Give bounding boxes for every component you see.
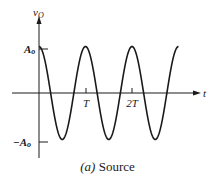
x-tick-label-2T: 2T — [126, 97, 139, 109]
y-axis-label: vO — [33, 6, 44, 20]
caption-text: Source — [99, 159, 135, 174]
caption-label: (a) — [80, 159, 95, 174]
x-axis-label: t — [203, 87, 207, 99]
y-tick-label-pos: Ao — [23, 43, 35, 56]
x-axis-arrow-icon — [193, 91, 201, 96]
y-tick-label-neg: −Ao — [13, 136, 31, 149]
waveform-chart: vO t Ao −Ao T 2T — [0, 0, 215, 184]
x-tick-label-T: T — [83, 97, 90, 109]
figure-caption: (a) Source — [0, 159, 215, 175]
